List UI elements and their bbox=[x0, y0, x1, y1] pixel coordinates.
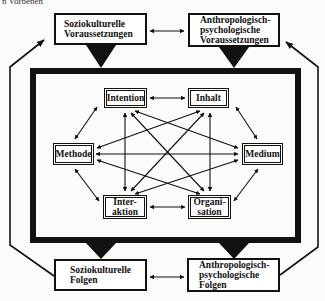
box-anthropologisch-voraussetzungen: Anthropologisch- psychologische Vorausse… bbox=[188, 13, 280, 47]
box-anthropologisch-folgen: Anthropologisch- psychologische Folgen bbox=[187, 258, 280, 292]
box-label-line: Intention bbox=[107, 93, 144, 103]
box-label-line: Medium bbox=[245, 149, 279, 159]
box-label-line: Inter- bbox=[113, 197, 136, 207]
box-label-line: sation bbox=[197, 207, 221, 217]
box-label-line: Anthropologisch- bbox=[200, 15, 278, 25]
box-label-line: psychologische bbox=[199, 270, 278, 280]
box-label-line: Methode bbox=[56, 149, 92, 159]
box-methode: Methode bbox=[53, 143, 94, 165]
box-interaktion: Inter- aktion bbox=[103, 195, 147, 219]
box-label-line: Soziokulturelle bbox=[64, 19, 145, 29]
box-label-line: Voraussetzungen bbox=[200, 35, 278, 45]
box-label-line: Folgen bbox=[70, 275, 145, 285]
box-soziokulturelle-folgen: Soziokulturelle Folgen bbox=[54, 259, 147, 291]
box-soziokulturelle-voraussetzungen: Soziokulturelle Voraussetzungen bbox=[54, 13, 147, 45]
box-label-line: Organi- bbox=[193, 197, 225, 207]
triangle-bottom-left bbox=[86, 243, 116, 259]
box-label-line: Inhalt bbox=[196, 93, 221, 103]
box-inhalt: Inhalt bbox=[188, 88, 229, 108]
triangle-bottom-right bbox=[219, 243, 249, 259]
box-label-line: Folgen bbox=[199, 280, 278, 290]
box-organisation: Organi- sation bbox=[188, 195, 231, 219]
box-label-line: Anthropologisch- bbox=[199, 260, 278, 270]
box-label-line: Voraussetzungen bbox=[64, 29, 145, 39]
box-label-line: aktion bbox=[112, 207, 138, 217]
triangle-top-right bbox=[219, 47, 249, 68]
box-label-line: psychologische bbox=[200, 25, 278, 35]
box-medium: Medium bbox=[242, 143, 283, 165]
triangle-top-left bbox=[86, 45, 116, 68]
box-intention: Intention bbox=[104, 88, 147, 108]
box-label-line: Soziokulturelle bbox=[70, 265, 145, 275]
